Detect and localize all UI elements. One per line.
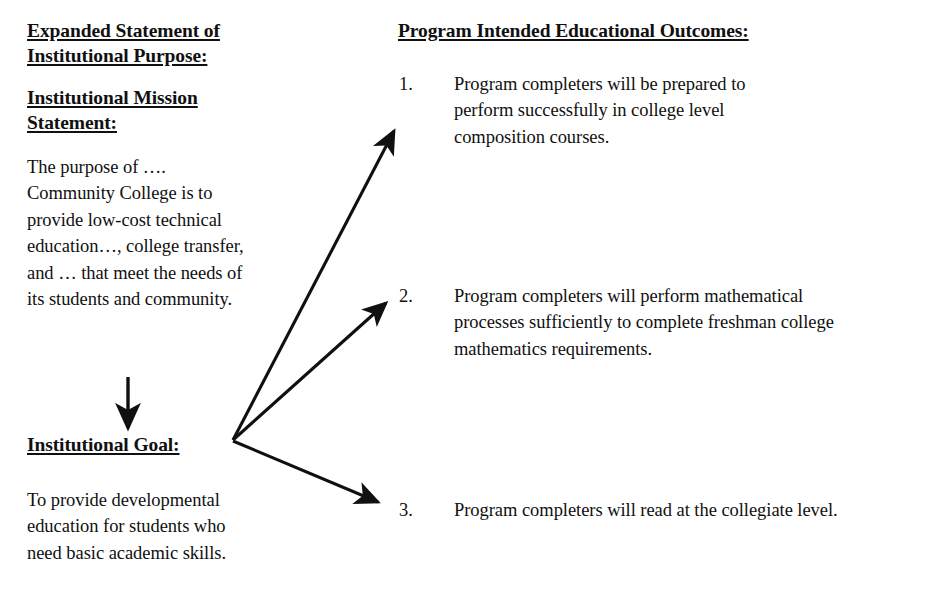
institutional-mission-heading: Institutional Mission Statement: [27, 85, 255, 135]
institutional-mission-heading-line-1: Institutional Mission [27, 85, 255, 110]
diagonal-up-arrow-icon-2 [233, 303, 386, 440]
institutional-goal-heading: Institutional Goal: [27, 432, 267, 457]
outcome-item-1: 1. Program completers will be prepared t… [399, 71, 799, 150]
outcomes-heading-block: Program Intended Educational Outcomes: [398, 18, 818, 43]
institutional-goal-body: To provide developmental education for s… [27, 487, 263, 566]
outcome-item-2: 2. Program completers will perform mathe… [399, 283, 879, 362]
outcomes-heading: Program Intended Educational Outcomes: [398, 18, 818, 43]
outcome-text-3: Program completers will read at the coll… [454, 497, 854, 523]
outcome-number-1: 1. [399, 71, 454, 97]
expanded-statement-heading-line-1: Expanded Statement of [27, 18, 255, 43]
outcome-number-2: 2. [399, 283, 454, 309]
diagonal-up-arrow-icon-1 [233, 131, 394, 440]
institutional-mission-body: The purpose of …. Community College is t… [27, 154, 255, 312]
expanded-statement-heading-line-2: Institutional Purpose: [27, 43, 255, 68]
expanded-statement-heading: Expanded Statement of Institutional Purp… [27, 18, 255, 68]
diagram-page: Expanded Statement of Institutional Purp… [0, 0, 930, 591]
outcome-text-1: Program completers will be prepared to p… [454, 71, 784, 150]
outcome-number-3: 3. [399, 497, 454, 523]
institutional-goal-heading-block: Institutional Goal: [27, 432, 267, 457]
outcome-item-3: 3. Program completers will read at the c… [399, 497, 859, 523]
institutional-mission-heading-line-2: Statement: [27, 110, 255, 135]
left-column: Expanded Statement of Institutional Purp… [27, 18, 255, 312]
outcome-text-2: Program completers will perform mathemat… [454, 283, 874, 362]
